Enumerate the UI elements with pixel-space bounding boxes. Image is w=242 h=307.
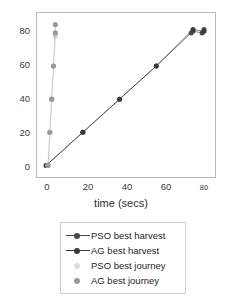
chart-legend: PSO best harvest AG best harvest PSO bes… bbox=[60, 222, 186, 294]
series-line bbox=[46, 30, 204, 166]
legend-item[interactable]: AG best harvest bbox=[65, 243, 181, 258]
data-point bbox=[201, 29, 206, 34]
series-1 bbox=[44, 27, 207, 168]
data-point bbox=[154, 64, 159, 69]
plot-area: 80 60 40 20 0 0 20 40 60 80 time (secs) bbox=[0, 0, 242, 200]
data-point bbox=[117, 97, 122, 102]
legend-marker-icon bbox=[65, 273, 91, 288]
legend-label: AG best journey bbox=[91, 275, 159, 286]
y-tick-label-60: 60 bbox=[4, 59, 30, 70]
legend-dot bbox=[74, 278, 80, 284]
y-tick-label-40: 40 bbox=[4, 93, 30, 104]
plot-canvas bbox=[0, 0, 242, 200]
y-tick-label-80: 80 bbox=[4, 25, 30, 36]
legend-dot bbox=[74, 263, 80, 269]
x-tick-label-20: 20 bbox=[75, 181, 101, 192]
data-point bbox=[80, 130, 85, 135]
data-point bbox=[53, 22, 58, 27]
x-tick-label-40: 40 bbox=[114, 181, 140, 192]
data-point bbox=[51, 63, 56, 68]
data-point bbox=[49, 97, 54, 102]
x-tick-label-80: 80 bbox=[191, 183, 217, 192]
legend-marker-icon bbox=[65, 258, 91, 273]
series-3 bbox=[45, 22, 58, 168]
series-line bbox=[46, 30, 204, 166]
y-tick-label-0: 0 bbox=[4, 161, 30, 172]
legend-marker-icon bbox=[65, 228, 91, 243]
series-line bbox=[48, 25, 55, 166]
y-tick-label-20: 20 bbox=[4, 127, 30, 138]
legend-dot bbox=[74, 233, 80, 239]
legend-label: PSO best journey bbox=[91, 260, 165, 271]
data-point bbox=[53, 30, 58, 35]
legend-item[interactable]: AG best journey bbox=[65, 273, 181, 288]
legend-dot bbox=[74, 248, 80, 254]
x-tick-label-0: 0 bbox=[34, 181, 60, 192]
data-point bbox=[190, 27, 195, 32]
series-0 bbox=[44, 27, 207, 168]
legend-item[interactable]: PSO best journey bbox=[65, 258, 181, 273]
legend-label: PSO best harvest bbox=[91, 230, 165, 241]
x-tick-label-60: 60 bbox=[153, 181, 179, 192]
legend-label: AG best harvest bbox=[91, 245, 159, 256]
legend-marker-icon bbox=[65, 243, 91, 258]
x-axis-title: time (secs) bbox=[0, 197, 242, 209]
legend-item[interactable]: PSO best harvest bbox=[65, 228, 181, 243]
data-point bbox=[47, 130, 52, 135]
data-point bbox=[45, 163, 50, 168]
chart-page: 80 60 40 20 0 0 20 40 60 80 time (secs) … bbox=[0, 0, 242, 307]
